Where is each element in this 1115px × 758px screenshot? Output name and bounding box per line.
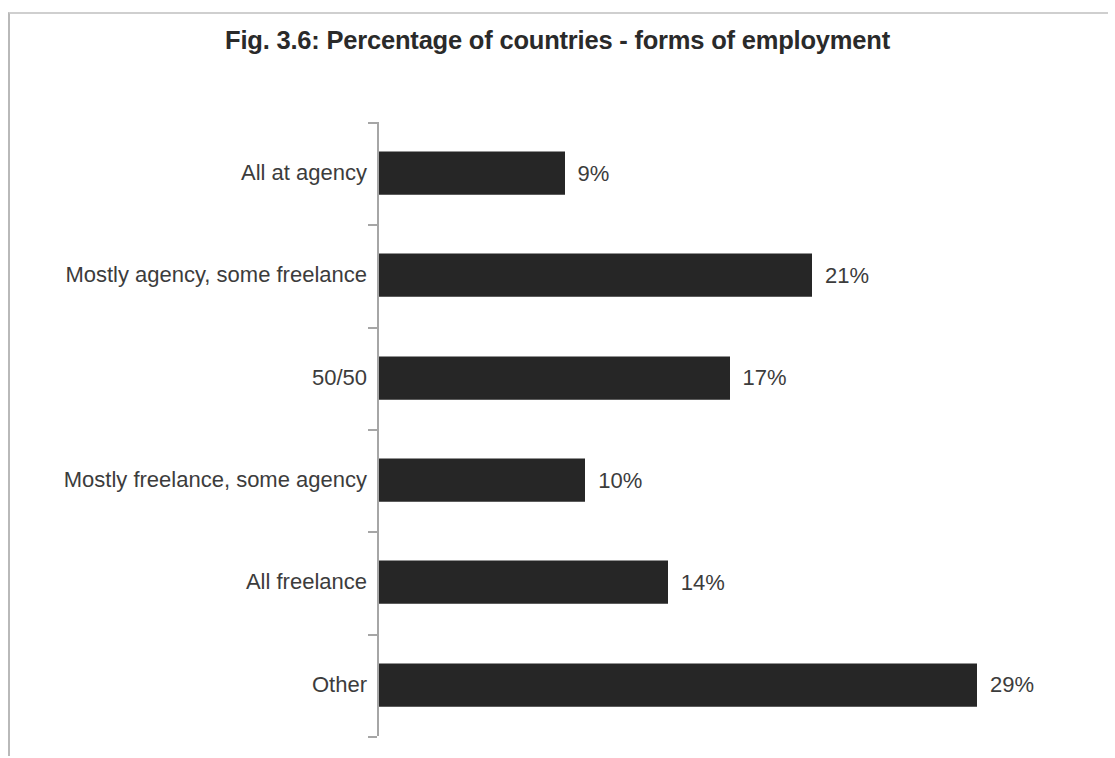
bar-group: 21% (379, 254, 869, 297)
bar[interactable] (379, 254, 812, 297)
axis-tick (368, 736, 377, 738)
category-label: All freelance (0, 571, 367, 593)
bar-value-label: 29% (990, 674, 1034, 696)
bar-value-label: 21% (825, 264, 869, 286)
axis-tick (368, 224, 377, 226)
axis-tick (368, 429, 377, 431)
bar[interactable] (379, 459, 585, 502)
axis-tick (368, 531, 377, 533)
category-label: Mostly freelance, some agency (0, 469, 367, 491)
bar[interactable] (379, 561, 668, 604)
category-label: All at agency (0, 162, 367, 184)
bar-value-label: 17% (743, 367, 787, 389)
bar[interactable] (379, 356, 730, 399)
category-label: 50/50 (0, 367, 367, 389)
bar-row: Mostly agency, some freelance21% (0, 224, 1115, 326)
bar-group: 29% (379, 663, 1034, 706)
category-label: Other (0, 674, 367, 696)
plot-area: All at agency9%Mostly agency, some freel… (0, 0, 1115, 758)
axis-tick (368, 327, 377, 329)
bar-group: 17% (379, 356, 787, 399)
bar-value-label: 10% (598, 469, 642, 491)
bar-row: All freelance14% (0, 531, 1115, 633)
bar[interactable] (379, 152, 565, 195)
axis-tick (368, 634, 377, 636)
chart-page: Fig. 3.6: Percentage of countries - form… (0, 0, 1115, 758)
bar-row: Mostly freelance, some agency10% (0, 429, 1115, 531)
bar-value-label: 9% (578, 162, 610, 184)
bar-group: 14% (379, 561, 725, 604)
bar-row: 50/5017% (0, 327, 1115, 429)
bar-group: 10% (379, 459, 642, 502)
category-label: Mostly agency, some freelance (0, 264, 367, 286)
bar-group: 9% (379, 152, 609, 195)
bar[interactable] (379, 663, 977, 706)
bar-row: Other29% (0, 634, 1115, 736)
axis-tick (368, 122, 377, 124)
bar-rows: All at agency9%Mostly agency, some freel… (0, 122, 1115, 736)
bar-row: All at agency9% (0, 122, 1115, 224)
bar-value-label: 14% (681, 571, 725, 593)
